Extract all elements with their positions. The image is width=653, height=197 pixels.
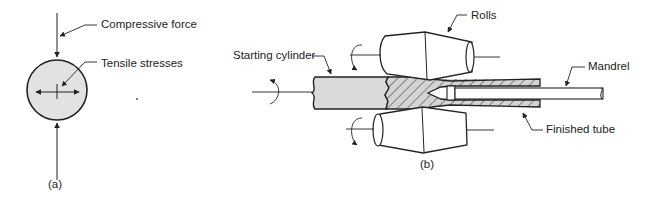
mandrel [455,88,603,99]
label-tensile-stresses: Tensile stresses [101,58,183,70]
top-roll-rotation-arrow [352,45,362,70]
top-roll [350,32,500,80]
label-finished-tube: Finished tube [546,124,615,136]
compressive-force-leader [60,25,97,36]
bottom-roll-rotation-arrow [352,118,362,145]
speck [136,98,138,100]
rolls-leader [448,15,467,32]
diagram-canvas [0,0,653,197]
caption-b: (b) [420,159,434,171]
bottom-roll [346,107,494,153]
finished-tube-leader [523,113,543,130]
label-mandrel: Mandrel [588,61,630,73]
label-compressive-force: Compressive force [101,19,197,31]
starting-cylinder [312,77,389,109]
mandrel-leader [566,67,585,86]
label-rolls: Rolls [471,10,497,22]
label-starting-cylinder: Starting cylinder [233,50,315,62]
mandrel-plug [447,86,455,100]
caption-a: (a) [48,179,62,191]
figure-a [27,13,138,180]
